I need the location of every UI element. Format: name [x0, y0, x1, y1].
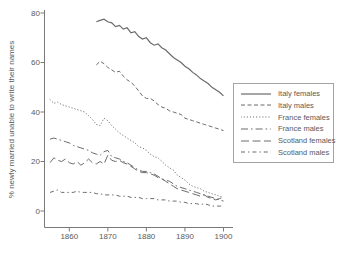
y-tick-label-60: 60: [14, 57, 40, 68]
legend-label: France females: [278, 113, 330, 122]
x-tick-label-1860: 1860: [55, 231, 83, 242]
legend-item-scotland-females: Scotland females: [241, 135, 333, 147]
series-line-france-males: [50, 138, 224, 201]
legend-line-sample-france-males: [241, 126, 271, 132]
legend-line-sample-italy-females: [241, 91, 271, 97]
x-tick-label-1880: 1880: [132, 231, 160, 242]
legend-label: Italy females: [278, 89, 320, 98]
x-tick-label-1870: 1870: [94, 231, 122, 242]
legend-line-sample-italy-males: [241, 102, 271, 108]
series-line-italy-females: [96, 19, 223, 96]
y-tick-label-80: 80: [14, 8, 40, 19]
legend-item-scotland-males: Scotland males: [241, 146, 333, 158]
legend-label: France males: [278, 124, 323, 133]
y-tick-label-40: 40: [14, 107, 40, 118]
legend-item-italy-females: Italy females: [241, 88, 333, 100]
figure: % newly married unable to write their na…: [0, 0, 343, 256]
legend-line-sample-france-females: [241, 114, 271, 120]
legend-label: Scotland males: [278, 148, 329, 157]
legend-item-france-females: France females: [241, 111, 333, 123]
legend-item-france-males: France males: [241, 123, 333, 135]
y-axis-label: % newly married unable to write their na…: [7, 22, 18, 218]
data-series-lines: [50, 19, 224, 206]
tick-marks: [41, 13, 224, 232]
y-tick-label-20: 20: [14, 156, 40, 167]
legend-item-italy-males: Italy males: [241, 100, 333, 112]
legend: Italy females Italy males France females…: [233, 83, 334, 163]
legend-line-sample-scotland-females: [241, 138, 271, 144]
x-tick-label-1900: 1900: [210, 231, 238, 242]
series-line-italy-males: [96, 61, 223, 130]
x-tick-label-1890: 1890: [171, 231, 199, 242]
legend-line-sample-scotland-males: [241, 149, 271, 155]
legend-label: Scotland females: [278, 136, 336, 145]
y-tick-label-0: 0: [14, 206, 40, 217]
legend-label: Italy males: [278, 101, 314, 110]
series-line-france-females: [50, 100, 224, 198]
